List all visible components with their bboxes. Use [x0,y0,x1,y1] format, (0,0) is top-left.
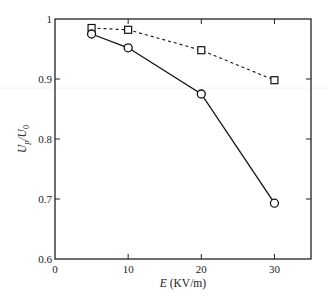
circle-marker [124,44,132,52]
circle-marker [197,90,205,98]
y-axis-label-sub-0: 0 [22,125,31,129]
plot-frame [55,19,311,259]
line-chart: 01020300.60.70.80.91 E (KV/m) Up/U0 [0,0,328,303]
y-tick-label: 0.9 [38,73,52,85]
square-marker [125,26,132,33]
x-axis-label-unit: (KV/m) [167,277,206,290]
x-axis-label: E (KV/m) [159,277,206,290]
x-tick-label: 10 [123,263,135,275]
axis-ticks [55,19,311,259]
y-axis-label: Up/U0 [16,125,31,153]
circle-marker [88,30,96,38]
chart: 01020300.60.70.80.91 E (KV/m) Up/U0 [0,0,328,303]
y-tick-label: 1 [47,13,53,25]
square-marker [271,77,278,84]
y-tick-label: 0.8 [38,133,52,145]
x-axis-label-variable: E [159,277,167,289]
tick-labels: 01020300.60.70.80.91 [38,13,280,275]
data-series [88,25,279,208]
x-tick-label: 20 [196,263,208,275]
series-dashed-square [88,25,278,84]
y-tick-label: 0.6 [38,253,52,265]
circle-marker [270,199,278,207]
x-tick-label: 30 [269,263,281,275]
x-tick-label: 0 [52,263,58,275]
series-line [92,34,275,203]
y-tick-label: 0.7 [38,193,52,205]
y-axis-label-slash: /U [16,128,28,141]
square-marker [198,47,205,54]
series-solid-circle [88,30,279,207]
series-line [92,28,275,80]
plot-border [55,19,311,259]
